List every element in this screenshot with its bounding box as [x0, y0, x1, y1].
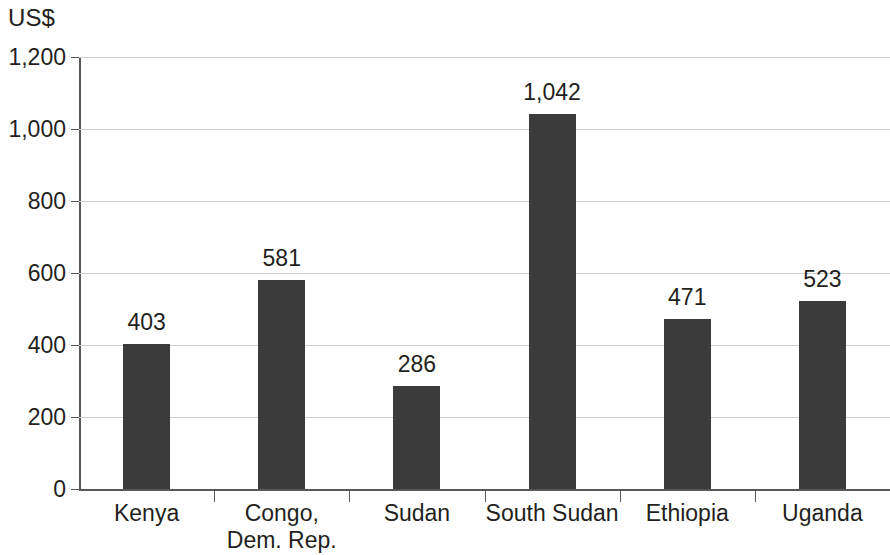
y-tick-label: 200 [0, 406, 66, 429]
gridline [79, 417, 890, 418]
bar-value-label: 1,042 [492, 81, 612, 104]
gridline [79, 57, 890, 58]
bar[interactable] [393, 386, 440, 489]
x-category-label-line: Sudan [384, 500, 451, 526]
bar[interactable] [529, 114, 576, 489]
y-tick-label: 800 [0, 190, 66, 213]
y-tick-label: 1,200 [0, 46, 66, 69]
x-category-label-line: Congo, [245, 500, 319, 526]
gridline [79, 201, 890, 202]
gridline [79, 129, 890, 130]
bar[interactable] [123, 344, 170, 489]
gridline [79, 345, 890, 346]
y-tick-label: 600 [0, 262, 66, 285]
bar[interactable] [258, 280, 305, 489]
y-axis-unit-label: US$ [8, 4, 55, 32]
bar-value-label: 581 [222, 247, 342, 270]
bar[interactable] [799, 301, 846, 489]
x-category-label-line: Dem. Rep. [192, 527, 372, 554]
x-category-label-line: Kenya [114, 500, 179, 526]
y-tick-label: 400 [0, 334, 66, 357]
y-tick-label: 0 [0, 478, 66, 501]
bar-value-label: 471 [627, 286, 747, 309]
bar-value-label: 523 [762, 268, 882, 291]
bar-value-label: 286 [357, 353, 477, 376]
bar[interactable] [664, 319, 711, 489]
x-category-label-line: Uganda [782, 500, 863, 526]
bar-chart: US$ 02004006008001,0001,200 4035812861,0… [0, 0, 890, 555]
x-category-label-line: Ethiopia [646, 500, 729, 526]
y-tick-label: 1,000 [0, 118, 66, 141]
bar-value-label: 403 [87, 311, 207, 334]
x-category-label: Uganda [732, 500, 890, 527]
